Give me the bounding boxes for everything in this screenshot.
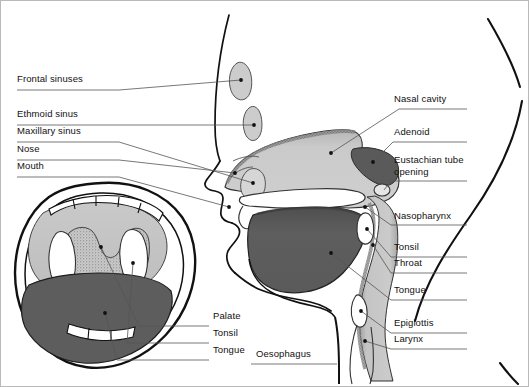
label-inset-tongue: Tongue: [213, 344, 245, 356]
label-nasal-cavity: Nasal cavity: [394, 93, 446, 105]
oesophagus: [335, 317, 339, 384]
label-eustachian-tube: Eustachian tube: [394, 154, 464, 166]
label-tongue: Tongue: [394, 284, 426, 296]
label-oesophagus: Oesophagus: [256, 348, 311, 360]
tongue: [248, 207, 367, 293]
label-throat: Throat: [394, 257, 422, 269]
mouth-inset: [15, 183, 195, 368]
label-epiglottis: Epiglottis: [394, 317, 434, 329]
back-of-head-curve: [488, 19, 520, 87]
neck-shoulder-curve: [415, 101, 522, 384]
leader-nose: [17, 160, 235, 173]
label-maxillary-sinus: Maxillary sinus: [17, 125, 81, 137]
label-nose: Nose: [17, 143, 40, 155]
anatomy-figure: Frontal sinuses Ethmoid sinus Maxillary …: [0, 0, 529, 387]
label-nasopharynx: Nasopharynx: [394, 210, 451, 222]
label-inset-tonsil: Tonsil: [213, 327, 238, 339]
label-tonsil: Tonsil: [394, 241, 419, 253]
label-larynx: Larynx: [394, 333, 423, 345]
label-mouth: Mouth: [17, 160, 44, 172]
label-eustachian-tube-opening: opening: [394, 166, 429, 178]
label-ethmoid-sinus: Ethmoid sinus: [17, 108, 78, 120]
label-inset-palate: Palate: [213, 310, 241, 322]
anatomy-illustration: [1, 1, 528, 386]
ethmoid-sinus: [243, 106, 262, 140]
label-adenoid: Adenoid: [394, 126, 430, 138]
label-frontal-sinuses: Frontal sinuses: [17, 73, 83, 85]
